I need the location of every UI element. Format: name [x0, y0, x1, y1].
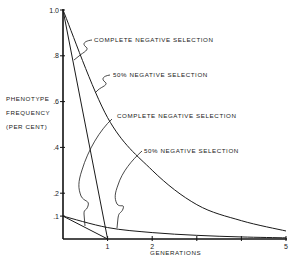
y-tick-label: .8: [53, 52, 59, 59]
y-axis-label-line3: (PER CENT): [6, 123, 47, 130]
leader-complete-bottom: [79, 119, 112, 226]
annotation-50-bottom: 50% NEGATIVE SELECTION: [144, 147, 239, 154]
axes: [63, 9, 287, 239]
annotation-complete-top: COMPLETE NEGATIVE SELECTION: [94, 36, 214, 43]
ticks: 125.1.2.4.6.81.0: [49, 7, 288, 251]
leader-50-top: [95, 75, 110, 93]
series-line-0: [63, 10, 108, 239]
annotation-50-top: 50% NEGATIVE SELECTION: [113, 71, 208, 78]
series-line-2: [63, 216, 108, 239]
annotation-complete-bottom: COMPLETE NEGATIVE SELECTION: [117, 112, 237, 119]
leader-lines: [74, 40, 142, 228]
x-axis-label: GENERATIONS: [150, 249, 201, 256]
series-group: [63, 10, 286, 239]
y-tick-label: 1.0: [49, 7, 59, 14]
x-tick-label: 5: [284, 243, 288, 250]
x-tick-label: 1: [106, 243, 110, 250]
chart: 125.1.2.4.6.81.0 COMPLETE NEGATIVE SELEC…: [0, 0, 295, 265]
y-axis-label-line2: FREQUENCY: [6, 109, 50, 116]
y-axis-label-line1: PHENOTYPE: [6, 95, 50, 102]
leader-50-bottom: [115, 151, 142, 228]
y-tick-label: .6: [53, 98, 59, 105]
y-tick-label: .4: [53, 144, 59, 151]
series-line-1: [63, 10, 286, 231]
y-tick-label: .1: [53, 213, 59, 220]
y-tick-label: .2: [53, 190, 59, 197]
series-line-3: [63, 216, 286, 238]
leader-complete-top: [74, 40, 92, 60]
